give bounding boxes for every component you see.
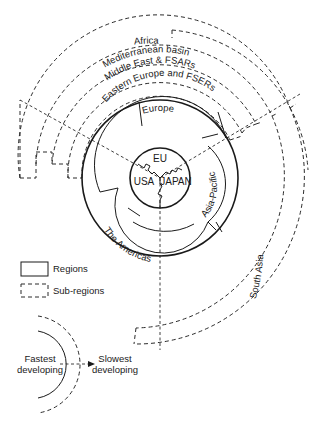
concentric-regions-diagram: EU USA JAPAN Europe Asia-Pacific The Ame…	[0, 0, 329, 436]
subregion-left-steps	[20, 100, 82, 178]
core-label-eu: EU	[153, 153, 167, 164]
legend: Regions Sub-regions	[21, 262, 104, 297]
region-label-americas: The Americas	[102, 225, 152, 264]
key-slowest-line2: developing	[92, 364, 138, 375]
subregion-label-africa: Africa	[133, 35, 159, 47]
subregion-south-asia-end	[134, 328, 136, 344]
legend-regions-label: Regions	[53, 263, 88, 274]
legend-subregions-label: Sub-regions	[53, 285, 104, 296]
region-label-europe: Europe	[141, 102, 175, 116]
region-label-asia-pacific: Asia-Pacific	[198, 170, 219, 219]
core-label-japan: JAPAN	[160, 176, 192, 187]
legend-regions-swatch	[21, 262, 48, 276]
key-fastest-line2: developing	[17, 364, 63, 375]
subregion-south-asia-outer-arc	[136, 108, 304, 344]
development-key: Fastest developing Slowest developing	[17, 316, 138, 413]
divider-upper-left	[20, 100, 160, 178]
region-inner-americas-arc	[133, 222, 194, 231]
key-fastest-line1: Fastest	[24, 353, 56, 364]
subregion-label-south-asia: South Asia	[247, 253, 265, 299]
radial-dividers	[20, 94, 300, 350]
subregion-africa-outer-arc	[172, 30, 308, 170]
subregion-right-steps	[230, 104, 296, 140]
core-label-usa: USA	[134, 176, 155, 187]
key-slowest-line1: Slowest	[98, 353, 132, 364]
legend-subregions-swatch	[21, 284, 48, 297]
